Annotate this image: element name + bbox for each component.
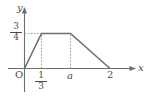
plot-canvas — [0, 0, 149, 102]
y-tick-denominator: 4 — [10, 33, 22, 42]
function-graph-figure: y x O 3 4 1 3 a 2 — [0, 0, 149, 102]
y-tick-label-three-quarters: 3 4 — [10, 22, 22, 43]
x-tick-label-a: a — [67, 71, 73, 81]
x-tick-label-one-third: 1 3 — [35, 71, 47, 92]
x-axis-arrow — [129, 66, 136, 71]
x-tick-one-third-denominator: 3 — [35, 82, 47, 91]
x-tick-one-third-numerator: 1 — [35, 71, 47, 80]
x-tick-label-two: 2 — [107, 70, 113, 80]
y-axis-label: y — [17, 3, 23, 13]
origin-label: O — [15, 70, 23, 80]
curve-piecewise-trapezoid — [25, 34, 111, 69]
y-tick-numerator: 3 — [10, 22, 22, 31]
x-axis-label: x — [138, 63, 144, 73]
